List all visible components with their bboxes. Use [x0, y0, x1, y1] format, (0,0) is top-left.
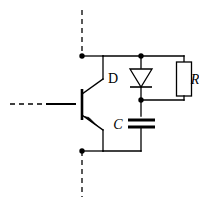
node-dot-collector-rail — [79, 53, 84, 58]
circuit-diagram: D R C — [0, 0, 199, 207]
node-dot-emitter-rail — [79, 148, 84, 153]
resistor-body — [177, 62, 192, 96]
transistor-emitter-arrow — [85, 117, 98, 127]
diode-triangle — [130, 69, 152, 87]
node-dot-diode-cathode — [138, 97, 143, 102]
transistor-collector-slant — [82, 79, 103, 94]
resistor-label: R — [190, 72, 199, 87]
diode-label: D — [108, 71, 118, 86]
capacitor-label: C — [113, 117, 123, 132]
circuit-schematic-canvas: D R C — [0, 0, 199, 207]
node-dot-diode-top — [138, 53, 143, 58]
